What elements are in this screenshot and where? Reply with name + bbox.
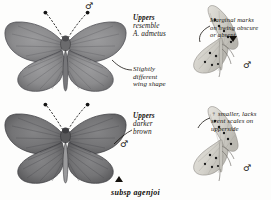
marker-triangle-up bbox=[115, 176, 123, 182]
plate-caption: subsp agenjoi bbox=[0, 188, 271, 197]
annotation-uppers-resemble-lead: Uppers bbox=[133, 14, 166, 22]
leader-female-note bbox=[198, 118, 210, 128]
male-symbol-lower-right: ♂ bbox=[243, 164, 251, 173]
annotation-wing-shape: Slightly different wing shape bbox=[133, 58, 166, 97]
male-symbol-lower-left: ♂ bbox=[120, 140, 128, 149]
leader-wing-shape bbox=[112, 60, 132, 70]
annotation-uppers-resemble: Uppersresemble A. admetus bbox=[133, 6, 166, 46]
leader-marginal-marks bbox=[199, 26, 210, 42]
leader-uppers-resemble bbox=[186, 13, 204, 16]
annotation-uppers-darker-lead: Uppers bbox=[133, 112, 155, 120]
annotation-uppers-darker-body: darker brown bbox=[133, 120, 155, 136]
annotation-uppers-resemble-body: resemble A. admetus bbox=[133, 22, 166, 38]
butterfly-identification-plate: Uppersresemble A. admetus Slightly diffe… bbox=[0, 0, 271, 200]
annotation-uppers-darker: Uppersdarker brown bbox=[133, 104, 155, 144]
annotation-wing-shape-body: Slightly different wing shape bbox=[133, 66, 166, 89]
annotation-female-note-body: ♀ smaller, lacks scent scales on uppersi… bbox=[211, 110, 256, 133]
annotation-female-note: ♀ smaller, lacks scent scales on uppersi… bbox=[211, 102, 256, 140]
male-symbol-upper-right: ♂ bbox=[243, 61, 251, 70]
annotation-marginal-marks: Marginal marks on hwing obscure or absen… bbox=[210, 9, 258, 46]
annotation-marginal-marks-body: Marginal marks on hwing obscure or absen… bbox=[210, 16, 258, 38]
male-symbol-upper-left: ♂ bbox=[85, 2, 93, 11]
